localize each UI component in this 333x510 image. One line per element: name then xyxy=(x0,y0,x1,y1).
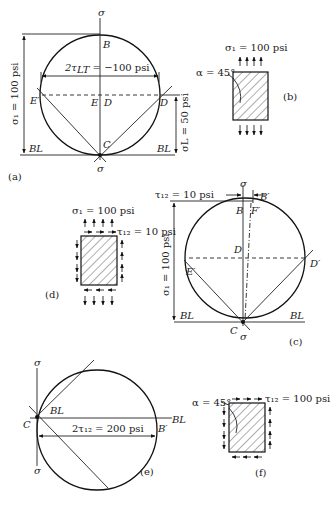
panel-e-mohr-circle: σ σ BL BL C B′ 2τ₁₂ = 200 psi (e) xyxy=(23,357,186,490)
baseline-right-label-a: BL xyxy=(156,143,171,154)
shear-label-a: 2τLT = −100 psi xyxy=(64,62,150,75)
point-D-prime-c: D′ xyxy=(309,258,321,269)
pole-point-c xyxy=(241,320,245,324)
panel-label-e: (e) xyxy=(140,466,154,477)
point-C-a: C xyxy=(103,139,111,150)
axis-label-bottom-c: σ xyxy=(240,331,248,342)
angle-label-b: α = 45° xyxy=(196,67,235,78)
point-D-a: D xyxy=(103,97,112,108)
baseline-left-label-e: BL xyxy=(49,405,64,416)
stress-label-b: σ₁ = 100 psi xyxy=(225,42,288,53)
panel-label-f: (f) xyxy=(255,467,267,478)
hatched-element-d xyxy=(81,236,117,285)
axis-label-bottom-a: σ xyxy=(97,163,105,174)
panel-f-element: α = 45° τ₁₂ = 100 psi (f) xyxy=(192,393,330,478)
panel-label-d: (d) xyxy=(45,289,59,300)
point-B-a: B xyxy=(102,39,110,50)
shear-label-f: τ₁₂ = 100 psi xyxy=(265,393,330,404)
axis-label-top-c: σ xyxy=(240,178,248,189)
point-D-prime-a: D xyxy=(159,97,168,108)
tension-arrows-top-b xyxy=(240,57,261,66)
mohr-circle-figure: σ σ BL BL σ₁ = 100 psi 2τLT = −100 psi B… xyxy=(0,0,333,510)
tau-label-c: τ₁₂ = 10 psi xyxy=(155,189,214,200)
shear-label-e: 2τ₁₂ = 200 psi xyxy=(72,423,144,434)
diagonal-line-1-e xyxy=(37,360,94,416)
panel-label-b: (b) xyxy=(283,91,297,102)
tension-arrows-bottom-d xyxy=(85,296,112,305)
panel-label-c: (c) xyxy=(289,336,303,347)
angle-label-f: α = 45° xyxy=(192,397,231,408)
point-E-prime-a: E′ xyxy=(29,95,40,106)
baseline-left-label-c: BL xyxy=(179,310,194,321)
stress-label-d: σ₁ = 100 psi xyxy=(72,205,135,216)
dashdot-line-c xyxy=(245,203,251,320)
point-C-e: C xyxy=(23,419,31,430)
panel-c-mohr-circle: σ σ τ₁₂ = 10 psi σ₁ = 100 psi BL BL B B′… xyxy=(155,178,321,347)
axis-label-bottom-e: σ xyxy=(34,465,42,476)
baseline-right-label-e: BL xyxy=(171,414,186,425)
point-E-a: E xyxy=(90,97,99,108)
baseline-right-label-c: BL xyxy=(289,310,304,321)
hatched-element-b xyxy=(233,72,268,120)
panel-label-a: (a) xyxy=(8,171,22,182)
axis-label-top-a: σ xyxy=(98,7,106,18)
sigma1-label-a: σ₁ = 100 psi xyxy=(9,62,20,125)
point-E-prime-c: E′ xyxy=(185,266,196,277)
axis-label-top-e: σ xyxy=(34,357,42,368)
sigmaL-label-a: σL = 50 psi xyxy=(179,93,190,152)
point-C-c: C xyxy=(230,325,238,336)
point-D-c: D xyxy=(233,244,242,255)
tension-arrows-top-d xyxy=(85,219,112,227)
baseline-left-label-a: BL xyxy=(28,143,43,154)
tension-arrows-bottom-b xyxy=(240,125,261,135)
point-B-prime-e: B′ xyxy=(157,423,168,434)
pole-point-e xyxy=(35,415,39,419)
point-B-prime-c: B′ xyxy=(259,191,270,202)
panel-d-element: σ₁ = 100 psi τ₁₂ = 10 psi xyxy=(45,205,176,305)
pole-point-a xyxy=(98,153,102,157)
panel-b-element: σ₁ = 100 psi α = 45° (b) xyxy=(196,42,297,135)
point-B-c: B xyxy=(235,205,243,216)
panel-a-mohr-circle: σ σ BL BL σ₁ = 100 psi 2τLT = −100 psi B… xyxy=(8,7,190,182)
point-F-prime-c: F′ xyxy=(250,205,261,216)
sigma1-label-c: σ₁ = 100 psi xyxy=(160,233,171,296)
hatched-element-f xyxy=(229,403,265,452)
